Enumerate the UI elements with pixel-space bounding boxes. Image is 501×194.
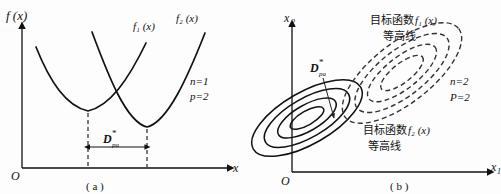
panel-b-param-n: n=2	[450, 75, 469, 87]
panel-a-param-p: p=2	[189, 90, 209, 102]
panel-b-x-axis-label: x	[490, 160, 497, 174]
panel-b-contours-f2-solid	[250, 64, 374, 171]
panel-b-param-p: P=2	[449, 91, 470, 103]
panel-b-distance-label: D	[309, 61, 319, 75]
panel-b-annotation-f1: 目标函数 f₁ (x) 等高线	[370, 13, 437, 43]
panel-a-curve-f1-label: f₁ (x)	[133, 20, 155, 33]
panel-a-y-axis-label: f (x)	[6, 8, 27, 23]
panel-a-distance-superscript: *	[112, 128, 117, 138]
panel-b-annotation-f2: 目标函数 f₂ (x) 等高线	[363, 123, 430, 153]
panel-b-distance-superscript: *	[319, 57, 324, 67]
contour-f1-level-3	[359, 35, 445, 112]
contour-f2-level-1	[250, 64, 374, 171]
panel-b-y-axis-label: x	[283, 11, 290, 25]
panel-a-x-axis-label: x	[232, 161, 239, 175]
contour-f1-level-4	[376, 50, 429, 97]
panel-a-param-n: n=1	[190, 75, 208, 87]
panel-a-curve-f2	[92, 32, 205, 127]
panel-b-annotation-f1-text: 目标函数	[370, 13, 414, 27]
panel-b-x-axis-label-group: x 1	[490, 160, 501, 176]
panel-b-2d-contour-plot: x 2 x 1 O D * pa 目标函数 f₁ (x) 等高线 目标函数 f₂…	[250, 0, 501, 194]
figure-container: f (x) x O f₁ (x) f₂ (x) D * pa n=1 p=2 (…	[0, 0, 501, 194]
panel-b-annotation-f2-text: 目标函数	[363, 123, 407, 137]
panel-b-y-axis-subscript: 2	[291, 18, 295, 27]
panel-a-distance-subscript: pa	[111, 141, 120, 149]
panel-a-caption: ( a )	[86, 180, 104, 193]
panel-b-annotation-f2-function: f₂ (x)	[408, 124, 430, 137]
panel-a-distance-label: D	[102, 132, 112, 146]
panel-b-annotation-f1-contour-word: 等高线	[383, 29, 416, 43]
contour-f2-level-4	[287, 102, 327, 133]
panel-a-curve-f2-label: f₂ (x)	[176, 12, 198, 25]
panel-b-y-axis-label-group: x 2	[283, 11, 295, 27]
panel-b-annotation-f1-function: f₁ (x)	[415, 14, 437, 27]
panel-a-distance-label-group: D * pa	[102, 128, 120, 149]
panel-a-curve-f1	[36, 43, 146, 111]
panel-b-caption: ( b )	[390, 180, 409, 193]
panel-b-x-axis-subscript: 1	[497, 167, 501, 176]
panel-b-origin-label: O	[281, 174, 290, 188]
panel-b-distance-label-group: D * pa	[309, 57, 327, 78]
contour-f2-level-3	[272, 90, 342, 146]
panel-b-distance-subscript: pa	[318, 70, 327, 78]
panel-b-annotation-f2-contour-word: 等高线	[368, 139, 401, 153]
panel-a-1d-objective-plot: f (x) x O f₁ (x) f₂ (x) D * pa n=1 p=2 (…	[0, 0, 250, 194]
panel-a-origin-label: O	[11, 169, 20, 183]
